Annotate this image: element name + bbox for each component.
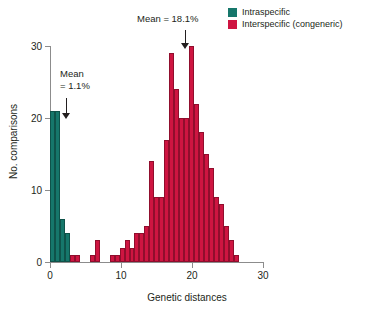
y-axis-title: No. comparisons [8, 62, 19, 222]
y-axis-tick [45, 118, 50, 119]
chart-legend: Intraspecific Interspecific (congeneric) [228, 8, 343, 29]
x-axis-tick-label: 20 [182, 270, 202, 281]
legend-label-intraspecific: Intraspecific [242, 8, 290, 17]
annotation-interspecific-mean-line1: Mean = 18.1% [137, 13, 199, 25]
plot-area [50, 46, 263, 262]
histogram-bar [95, 240, 100, 262]
y-axis-tick [45, 190, 50, 191]
y-axis-tick-label: 30 [20, 41, 42, 52]
x-axis-tick-label: 0 [40, 270, 60, 281]
x-axis-tick [192, 263, 193, 268]
x-axis-line [50, 262, 264, 263]
y-axis-tick-label: 10 [20, 185, 42, 196]
x-axis-title: Genetic distances [0, 292, 374, 303]
x-axis-tick [263, 263, 264, 268]
x-axis-tick-label: 30 [253, 270, 273, 281]
x-axis-tick [121, 263, 122, 268]
legend-swatch-interspecific [228, 20, 237, 29]
arrow-shaft [185, 30, 186, 44]
y-axis-tick [45, 46, 50, 47]
legend-label-interspecific: Interspecific (congeneric) [242, 20, 343, 29]
histogram-bar [75, 255, 80, 262]
y-axis-tick-label: 0 [20, 257, 42, 268]
legend-item-interspecific: Interspecific (congeneric) [228, 20, 343, 29]
histogram-figure: Intraspecific Interspecific (congeneric)… [0, 0, 374, 319]
x-axis-tick [50, 263, 51, 268]
histogram-bar [234, 255, 239, 262]
x-axis-tick-label: 10 [111, 270, 131, 281]
annotation-interspecific-mean: Mean = 18.1% [137, 13, 199, 25]
legend-item-intraspecific: Intraspecific [228, 8, 343, 17]
y-axis-tick-label: 20 [20, 113, 42, 124]
legend-swatch-intraspecific [228, 8, 237, 17]
